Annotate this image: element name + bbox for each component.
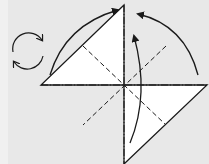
arrow-right-to-top (138, 14, 198, 75)
origami-diagram (0, 0, 209, 164)
diagram-svg (0, 0, 209, 164)
turn-over-icon (13, 33, 43, 69)
